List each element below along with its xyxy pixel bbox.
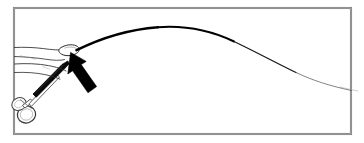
illustration-figure: Surgical illustration: fingertip graspin… (0, 0, 364, 143)
illustration-canvas (0, 0, 364, 143)
